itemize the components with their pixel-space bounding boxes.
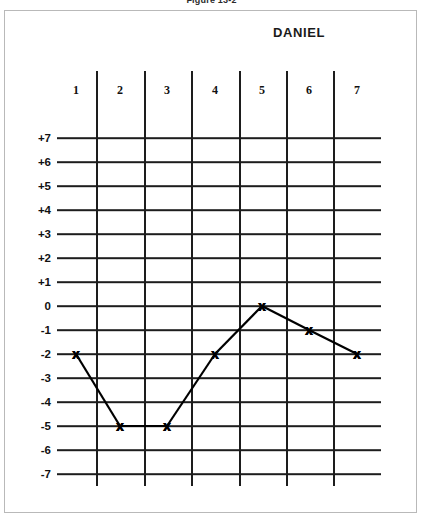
- horizontal-gridline--3: [57, 377, 381, 379]
- data-point-day-6-value--1: x: [305, 323, 313, 337]
- horizontal-gridline--1: [57, 329, 381, 331]
- y-axis-label-+7: +7: [21, 132, 51, 144]
- column-header-6: 6: [298, 83, 320, 98]
- column-header-2: 2: [109, 83, 131, 98]
- vertical-gridline-4: [239, 71, 241, 486]
- y-axis-label-+2: +2: [21, 252, 51, 264]
- figure-frame: DANIEL 1234567 +7+6+5+4+3+2+10-1-2-3-4-5…: [4, 10, 417, 513]
- data-point-day-1-value--2: x: [72, 347, 80, 361]
- horizontal-gridline-+3: [57, 233, 381, 235]
- horizontal-gridline--7: [57, 473, 381, 475]
- vertical-gridline-1: [96, 71, 98, 486]
- y-axis-label-+1: +1: [21, 276, 51, 288]
- data-point-day-5-value-0: x: [258, 299, 266, 313]
- y-axis-label-+3: +3: [21, 228, 51, 240]
- horizontal-gridline-+6: [57, 161, 381, 163]
- column-header-5: 5: [251, 83, 273, 98]
- vertical-gridline-2: [144, 71, 146, 486]
- horizontal-gridline-+7: [57, 137, 381, 139]
- y-axis-label--1: -1: [21, 324, 51, 336]
- y-axis-label-+5: +5: [21, 180, 51, 192]
- figure-caption: Figure 13-2: [0, 0, 423, 5]
- data-point-day-3-value--5: x: [163, 419, 171, 433]
- horizontal-gridline-+5: [57, 185, 381, 187]
- horizontal-gridline-+1: [57, 281, 381, 283]
- column-header-4: 4: [204, 83, 226, 98]
- y-axis-label-0: 0: [21, 300, 51, 312]
- data-point-day-7-value--2: x: [353, 347, 361, 361]
- behavior-chart: 1234567 +7+6+5+4+3+2+10-1-2-3-4-5-6-7 xx…: [5, 11, 418, 514]
- y-axis-label--6: -6: [21, 444, 51, 456]
- y-axis-label-+4: +4: [21, 204, 51, 216]
- vertical-gridline-5: [286, 71, 288, 486]
- horizontal-gridline--5: [57, 425, 381, 427]
- y-axis-label--5: -5: [21, 420, 51, 432]
- column-header-1: 1: [65, 83, 87, 98]
- column-header-3: 3: [156, 83, 178, 98]
- y-axis-label--2: -2: [21, 348, 51, 360]
- y-axis-label--4: -4: [21, 396, 51, 408]
- horizontal-gridline-+4: [57, 209, 381, 211]
- vertical-gridline-6: [333, 71, 335, 486]
- data-point-day-4-value--2: x: [211, 347, 219, 361]
- data-point-day-2-value--5: x: [116, 419, 124, 433]
- horizontal-gridline--4: [57, 401, 381, 403]
- vertical-gridline-3: [191, 71, 193, 486]
- y-axis-label--3: -3: [21, 372, 51, 384]
- column-header-7: 7: [346, 83, 368, 98]
- y-axis-label--7: -7: [21, 468, 51, 480]
- horizontal-gridline-+2: [57, 257, 381, 259]
- y-axis-label-+6: +6: [21, 156, 51, 168]
- horizontal-gridline--6: [57, 449, 381, 451]
- horizontal-gridline-0: [57, 305, 381, 307]
